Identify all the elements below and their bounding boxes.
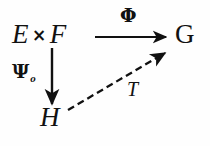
psi-glyph: Ψ (12, 60, 29, 82)
node-label-source: E×F (12, 21, 67, 48)
arrow-label-psi: Ψo (12, 62, 36, 84)
source-left-letter: E (12, 19, 29, 49)
node-label-factor: H (40, 104, 60, 131)
arrow-label-phi: Φ (120, 6, 137, 25)
psi-subscript: o (29, 72, 36, 84)
source-right-letter: F (50, 19, 67, 49)
commutative-diagram: E×F G H Φ Ψo T (0, 0, 210, 146)
t-arrow-line (68, 53, 165, 110)
cartesian-product-icon: × (29, 25, 50, 45)
node-label-target: G (175, 21, 195, 48)
arrow-label-t: T (127, 79, 138, 99)
